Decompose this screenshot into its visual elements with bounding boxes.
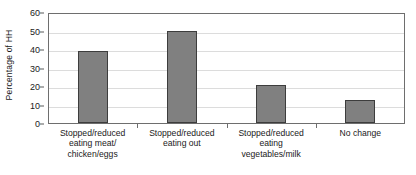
y-axis-title: Percentage of HH: [0, 0, 18, 130]
y-axis-tick-label: 50: [30, 27, 40, 36]
bar[interactable]: [167, 31, 197, 123]
x-axis-category-label: Stopped/reducedeating meat/chicken/eggs: [48, 128, 137, 159]
y-axis-tick-mark: [40, 87, 44, 88]
x-axis-category-label: Stopped/reducedeating out: [137, 128, 226, 159]
y-axis-tick-mark: [40, 50, 44, 51]
y-axis-tick-mark: [40, 124, 44, 125]
y-axis-tick-mark: [40, 13, 44, 14]
x-axis-category-label: Stopped/reducedeatingvegetables/milk: [227, 128, 316, 159]
bar[interactable]: [345, 100, 375, 123]
y-axis-tick-mark: [40, 31, 44, 32]
bar-slot: [138, 14, 227, 123]
bar-slot: [315, 14, 404, 123]
y-axis-tick-mark: [40, 105, 44, 106]
y-axis-tick-label: 20: [30, 83, 40, 92]
bar-chart: Percentage of HH 0102030405060 Stopped/r…: [0, 0, 416, 175]
x-axis-category-label-line: chicken/eggs: [49, 149, 136, 159]
x-axis-category-label-line: eating out: [138, 138, 225, 148]
y-axis-tick-label: 30: [30, 64, 40, 73]
y-axis-tick-mark: [40, 68, 44, 69]
x-axis-category-labels: Stopped/reducedeating meat/chicken/eggsS…: [48, 128, 405, 159]
x-axis-category-label-line: Stopped/reduced: [49, 128, 136, 138]
x-axis-category-label-line: Stopped/reduced: [138, 128, 225, 138]
bar-slot: [227, 14, 316, 123]
bar[interactable]: [78, 51, 108, 123]
x-axis-category-label: No change: [316, 128, 405, 159]
plot-area: [48, 13, 405, 124]
bar[interactable]: [256, 85, 286, 123]
x-axis-category-label-line: Stopped/reduced: [228, 128, 315, 138]
x-axis-category-label-line: No change: [317, 128, 404, 138]
y-axis-tick-label: 60: [30, 9, 40, 18]
y-axis-tick-labels: 0102030405060: [18, 13, 44, 124]
x-axis-category-label-line: eating: [228, 138, 315, 148]
y-axis-tick-label: 40: [30, 46, 40, 55]
x-axis-category-label-line: eating meat/: [49, 138, 136, 148]
y-axis-title-text: Percentage of HH: [4, 30, 14, 101]
bar-slot: [49, 14, 138, 123]
bars-layer: [49, 14, 404, 123]
y-axis-tick-label: 10: [30, 101, 40, 110]
x-axis-category-label-line: vegetables/milk: [228, 149, 315, 159]
